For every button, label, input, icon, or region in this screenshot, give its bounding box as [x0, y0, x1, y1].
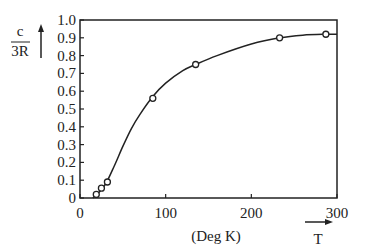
y-tick-label: 1.0: [57, 12, 76, 28]
y-tick-label: 0.2: [57, 154, 76, 170]
y-tick-label: 0.6: [57, 83, 76, 99]
y-arrow-icon: [38, 24, 44, 32]
x-tick-label: 100: [154, 205, 177, 221]
fit-curve: [93, 34, 337, 198]
data-point: [277, 35, 283, 41]
y-tick-label: 0.3: [57, 137, 76, 153]
x-arrow: T: [305, 219, 333, 247]
y-tick-label: 0.5: [57, 101, 76, 117]
plot-frame: [80, 20, 337, 198]
x-axis-label: (Deg K): [191, 228, 241, 245]
x-tick-label: 300: [326, 205, 349, 221]
y-label-numerator: c: [17, 23, 24, 39]
y-tick-label: 0: [69, 190, 77, 206]
x-arrow-label: T: [313, 231, 322, 247]
data-point: [150, 95, 156, 101]
x-tick-label: 200: [240, 205, 263, 221]
data-point: [193, 62, 199, 68]
y-tick-label: 0.8: [57, 48, 76, 64]
y-tick-label: 0.4: [57, 119, 76, 135]
y-axis-label: c 3R: [11, 23, 44, 59]
data-point: [93, 191, 99, 197]
data-markers: [93, 31, 329, 197]
y-tick-label: 0.9: [57, 30, 76, 46]
y-tick-label: 0.7: [57, 65, 76, 81]
data-point: [98, 185, 104, 191]
x-tick-label: 0: [76, 205, 84, 221]
y-label-denominator: 3R: [11, 43, 29, 59]
chart: c 3R 00.10.20.30.40.50.60.70.80.91.0 010…: [0, 0, 368, 252]
data-point: [104, 179, 110, 185]
y-tick-label: 0.1: [57, 172, 76, 188]
data-point: [323, 31, 329, 37]
